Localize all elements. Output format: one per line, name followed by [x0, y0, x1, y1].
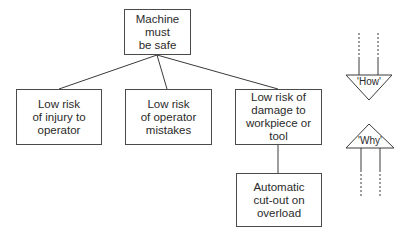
how-label: 'How' — [349, 76, 389, 87]
grandchild-node-cutout: Automatic cut-out on overload — [236, 173, 322, 227]
child-node-damage: Low risk of damage to workpiece or tool — [235, 89, 322, 145]
why-label: 'Why' — [350, 135, 390, 146]
child-node-injury: Low risk of injury to operator — [16, 89, 102, 145]
root-node: Machine must be safe — [124, 9, 191, 55]
child-node-mistakes: Low risk of operator mistakes — [125, 89, 212, 145]
how-arrow — [346, 33, 392, 100]
